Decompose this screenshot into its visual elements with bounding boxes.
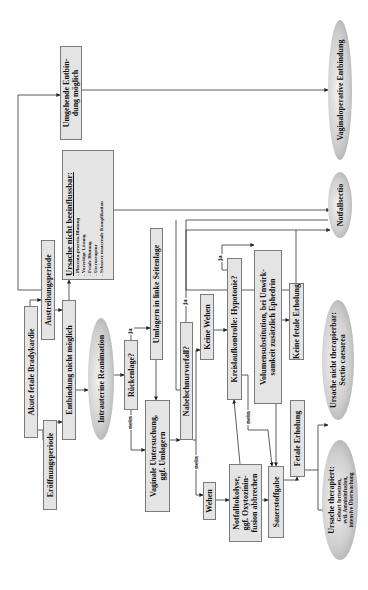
node-title: Ursache nicht beeinflussbar: <box>65 172 74 276</box>
edge-label-ja: ja <box>126 327 134 335</box>
node-label-line1: Notfalltokolyse, <box>232 476 241 530</box>
node-ursache-nicht-therapierbar: Ursache nicht therapierbar: Sectio caesa… <box>322 300 354 420</box>
cause-list: - Placenta-praevia-Blutung - Vorzeitige … <box>75 201 105 276</box>
node-label-line2: ggf. Umlagern <box>158 432 167 481</box>
node-vaginaloperative-entbindung: Vaginaloperative Entbindung <box>328 20 352 160</box>
edge-label-nein: nein <box>192 455 200 470</box>
node-notfalltokolyse: Notfalltokolyse, ggf. Oxytozinin- fusion… <box>229 464 262 542</box>
node-label: Akute fetale Bradykardie <box>27 328 36 415</box>
node-label: Fetale Erholung <box>293 411 302 466</box>
node-label: Rückenlage? <box>127 353 136 397</box>
node-label: Kreislaufkontrolle: Hypotonie? <box>230 275 239 382</box>
node-vaginale-untersuchung: Vaginale Untersuchung, ggf. Umlagern <box>145 400 170 512</box>
node-label: Sauerstoffgabe <box>272 476 281 527</box>
node-label: Austreibungsperiode <box>44 254 53 325</box>
node-umlagern-linke-seitenlage: Umlagern in linke Seitenlage <box>150 228 163 360</box>
node-nabelschnurvorfall: Nabelschnurvorfall? <box>180 322 193 440</box>
node-keine-fetale-erholung: Keine fetale Erholung <box>289 283 304 360</box>
node-notfallsectio: Notfallsectio <box>328 172 352 238</box>
node-label-line1: Vaginale Untersuchung, <box>149 415 158 497</box>
node-wehen: Wehen <box>203 482 216 520</box>
node-label-line1: Ursache nicht therapierbar: <box>329 312 338 408</box>
node-umgehende-entbindung: Umgehende Entbin- dung möglich <box>60 46 82 140</box>
node-fetale-erholung: Fetale Erholung <box>290 400 305 477</box>
edge-label-ja: ja <box>216 254 224 262</box>
node-label: Keine Wehen <box>203 304 212 349</box>
node-label: Keine fetale Erholung <box>292 284 301 359</box>
edge-label-nein: nein <box>126 415 134 430</box>
node-label-line1: Umgehende Entbin- <box>62 59 71 128</box>
node-label: Nabelschnurvorfall? <box>182 346 191 416</box>
node-label: Wehen <box>205 489 214 513</box>
node-title: Ursache therapiert: <box>327 466 336 533</box>
node-label: Entbindung nicht möglich <box>65 325 74 414</box>
edge-label-ja: ja <box>181 298 189 306</box>
cause-item: - Schwere maternale Komplikation <box>99 201 105 276</box>
node-kreislaufkontrolle: Kreislaufkontrolle: Hypotonie? <box>227 258 242 400</box>
node-detail-line3: intensive Überwachung <box>348 472 354 527</box>
flowchart-canvas: Akute fetale Bradykardie Eröffnungsperio… <box>0 0 368 590</box>
node-rueckenlage: Rückenlage? <box>124 340 138 410</box>
node-austreibungsperiode: Austreibungsperiode <box>41 240 55 340</box>
edge-label-nein: nein <box>244 410 252 425</box>
node-eroeffnungsperiode: Eröffnungsperiode <box>43 420 57 510</box>
node-akute-fetale-bradykardie: Akute fetale Bradykardie <box>24 306 38 438</box>
node-label-line2: ggf. Oxytozinin- <box>241 475 250 530</box>
node-label-line2: dung möglich <box>71 70 80 116</box>
node-ursache-nicht-beeinflussbar: Ursache nicht beeinflussbar: - Placenta-… <box>62 150 114 280</box>
node-label-line2: samkeit zusätzlich Ephedrin <box>268 279 277 376</box>
node-label: Notfallsectio <box>336 184 345 227</box>
node-ursache-therapiert: Ursache therapiert: Geburt fortsetzen, e… <box>322 440 358 560</box>
node-label-line2: Sectio caesarea <box>338 334 347 386</box>
node-label: Intrauterine Reanimation <box>97 335 106 423</box>
node-sauerstoffgabe: Sauerstoffgabe <box>268 466 284 538</box>
node-label: Umlagern in linke Seitenlage <box>152 245 161 343</box>
node-label: Eröffnungsperiode <box>46 433 55 497</box>
node-label-line1: Volumensubstitution, bei Unwirk- <box>259 269 268 385</box>
node-keine-wehen: Keine Wehen <box>200 294 214 360</box>
node-label-line3: fusion abbrechen <box>250 474 259 533</box>
node-volumensubstitution: Volumensubstitution, bei Unwirk- samkeit… <box>254 250 282 404</box>
node-intrauterine-reanimation: Intrauterine Reanimation <box>88 318 114 440</box>
node-entbindung-nicht-moeglich: Entbindung nicht möglich <box>62 300 76 440</box>
node-label: Vaginaloperative Entbindung <box>336 40 345 141</box>
